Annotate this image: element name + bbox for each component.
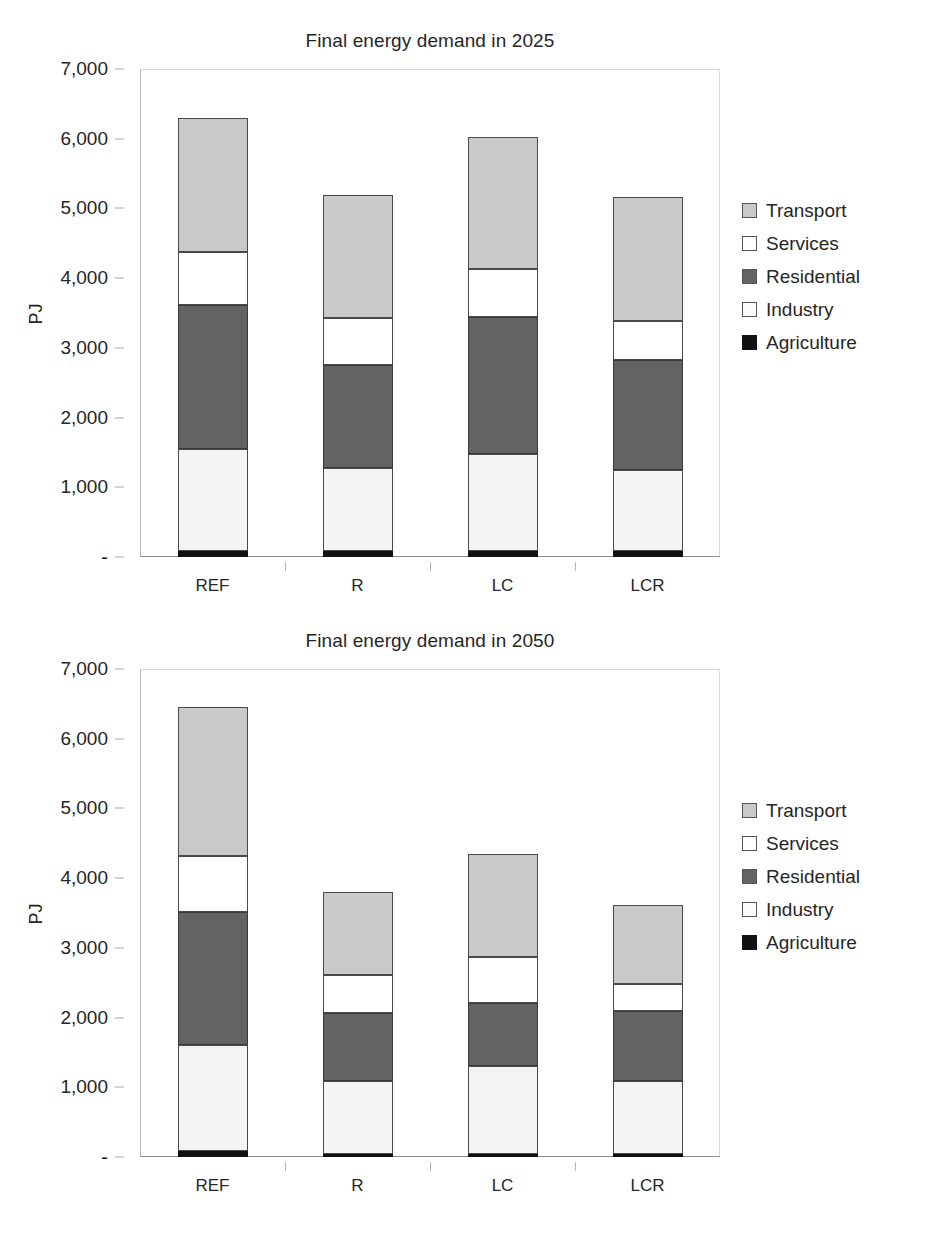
y-axis-tick-label: 3,000 — [60, 937, 108, 959]
y-axis-tick-label: 2,000 — [60, 407, 108, 429]
bar-segment-residential — [323, 365, 393, 468]
bar-segment-industry — [323, 1081, 393, 1154]
x-axis: REFRLCLCR — [140, 1162, 720, 1202]
bar-segment-agriculture — [468, 551, 538, 557]
x-axis-tick-mark — [285, 562, 286, 571]
bar-segment-agriculture — [178, 551, 248, 557]
bar-segment-residential — [178, 305, 248, 450]
legend-item-services: Services — [742, 227, 922, 260]
bar-stack — [323, 669, 393, 1157]
bar-segment-agriculture — [323, 1154, 393, 1157]
y-axis-tick-mark — [115, 417, 124, 418]
y-axis-tick-mark — [115, 557, 124, 558]
legend-swatch-residential-icon — [742, 269, 757, 284]
bar-stack — [178, 669, 248, 1157]
y-axis-tick-label: 1,000 — [60, 1076, 108, 1098]
x-axis-tick-label: REF — [196, 1176, 230, 1196]
x-axis-tick-mark — [430, 1162, 431, 1171]
y-axis-tick-mark — [115, 487, 124, 488]
bar-segment-residential — [323, 1013, 393, 1082]
y-axis: 7,0006,0005,0004,0003,0002,0001,000- — [0, 69, 134, 558]
y-axis-tick-label: 7,000 — [60, 658, 108, 680]
bar-segment-agriculture — [613, 1154, 683, 1157]
bar-segment-transport — [178, 707, 248, 855]
bar-segment-services — [468, 269, 538, 316]
bar-stack — [468, 669, 538, 1157]
y-axis-tick-mark — [115, 669, 124, 670]
bar-segment-services — [323, 975, 393, 1012]
bar-segment-industry — [178, 449, 248, 551]
y-axis-tick-mark — [115, 1157, 124, 1158]
bar-segment-transport — [323, 892, 393, 975]
legend-label: Residential — [766, 266, 860, 288]
bar-segment-residential — [468, 317, 538, 454]
x-axis-tick-mark — [575, 1162, 576, 1171]
legend-item-residential: Residential — [742, 860, 922, 893]
bar-segment-residential — [178, 912, 248, 1046]
x-axis-tick-label: R — [351, 1176, 363, 1196]
y-axis-tick-mark — [115, 278, 124, 279]
bar-segment-services — [613, 321, 683, 360]
y-axis-tick-label: - — [101, 1145, 108, 1169]
bar-stack — [613, 69, 683, 557]
bar-segment-agriculture — [613, 551, 683, 557]
bar-segment-transport — [323, 195, 393, 319]
legend-swatch-transport-icon — [742, 803, 757, 818]
bar-stack — [613, 669, 683, 1157]
x-axis-tick-mark — [285, 1162, 286, 1171]
legend-item-agriculture: Agriculture — [742, 326, 922, 359]
y-axis-tick-mark — [115, 878, 124, 879]
y-axis-tick-mark — [115, 947, 124, 948]
bar-segment-agriculture — [323, 551, 393, 557]
bar-segment-services — [468, 957, 538, 1002]
legend-label: Industry — [766, 299, 834, 321]
x-axis: REFRLCLCR — [140, 562, 720, 602]
y-axis-tick-mark — [115, 738, 124, 739]
x-axis-tick-label: LCR — [630, 576, 664, 596]
y-axis-tick-label: 5,000 — [60, 797, 108, 819]
bar-segment-residential — [613, 360, 683, 469]
legend-item-agriculture: Agriculture — [742, 926, 922, 959]
legend-swatch-agriculture-icon — [742, 935, 757, 950]
y-axis-tick-mark — [115, 138, 124, 139]
bar-segment-services — [323, 318, 393, 365]
y-axis: 7,0006,0005,0004,0003,0002,0001,000- — [0, 669, 134, 1158]
bar-stack — [323, 69, 393, 557]
legend-label: Services — [766, 833, 839, 855]
legend-item-transport: Transport — [742, 794, 922, 827]
legend: TransportServicesResidentialIndustryAgri… — [742, 194, 922, 359]
bar-segment-transport — [178, 118, 248, 253]
bar-segment-agriculture — [178, 1151, 248, 1157]
y-axis-tick-mark — [115, 347, 124, 348]
y-axis-tick-label: 5,000 — [60, 197, 108, 219]
bar-segment-residential — [468, 1003, 538, 1067]
y-axis-tick-label: 6,000 — [60, 728, 108, 750]
y-axis-tick-label: - — [101, 545, 108, 569]
legend-swatch-transport-icon — [742, 203, 757, 218]
bar-segment-industry — [613, 470, 683, 552]
x-axis-tick-label: LC — [492, 1176, 514, 1196]
legend-label: Industry — [766, 899, 834, 921]
y-axis-tick-label: 6,000 — [60, 128, 108, 150]
legend-item-industry: Industry — [742, 893, 922, 926]
legend-label: Agriculture — [766, 332, 857, 354]
figure-stacked-bar-charts: Final energy demand in 2025 7,0006,0005,… — [0, 0, 931, 1244]
legend-swatch-industry-icon — [742, 302, 757, 317]
y-axis-tick-mark — [115, 208, 124, 209]
bar-stack — [468, 69, 538, 557]
legend-label: Transport — [766, 200, 847, 222]
legend-swatch-residential-icon — [742, 869, 757, 884]
x-axis-tick-label: REF — [196, 576, 230, 596]
bar-segment-transport — [468, 854, 538, 957]
bar-segment-services — [613, 984, 683, 1011]
legend-item-services: Services — [742, 827, 922, 860]
bar-segment-transport — [468, 137, 538, 270]
y-axis-label: PJ — [26, 903, 47, 924]
bar-segment-industry — [468, 454, 538, 552]
legend-swatch-industry-icon — [742, 902, 757, 917]
x-axis-tick-mark — [430, 562, 431, 571]
bar-segment-services — [178, 856, 248, 912]
y-axis-tick-label: 2,000 — [60, 1007, 108, 1029]
bar-segment-services — [178, 252, 248, 304]
bar-segment-residential — [613, 1011, 683, 1081]
